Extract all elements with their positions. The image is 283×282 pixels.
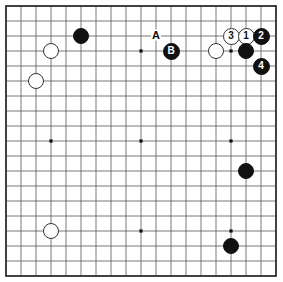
- stone-marker-2[interactable]: 2: [253, 28, 270, 45]
- stone-white[interactable]: [28, 73, 44, 89]
- point-label-a[interactable]: A: [151, 30, 161, 41]
- stone-marker-b[interactable]: B: [163, 43, 180, 60]
- stone-label: 3: [228, 31, 234, 41]
- stone-black[interactable]: [73, 28, 89, 44]
- stone-black[interactable]: [238, 43, 254, 59]
- stone-marker-4[interactable]: 4: [253, 58, 270, 75]
- stone-marker-1[interactable]: 1: [238, 28, 255, 45]
- stone-black[interactable]: [223, 238, 239, 254]
- go-board-diagram: B3124A: [0, 0, 283, 282]
- stone-label: 4: [258, 61, 264, 71]
- stone-label: 1: [243, 31, 249, 41]
- stone-white[interactable]: [43, 223, 59, 239]
- stone-black[interactable]: [238, 163, 254, 179]
- stone-white[interactable]: [43, 43, 59, 59]
- stone-marker-3[interactable]: 3: [223, 28, 240, 45]
- stone-white[interactable]: [208, 43, 224, 59]
- stone-label: 2: [258, 31, 264, 41]
- stone-label: B: [167, 46, 174, 56]
